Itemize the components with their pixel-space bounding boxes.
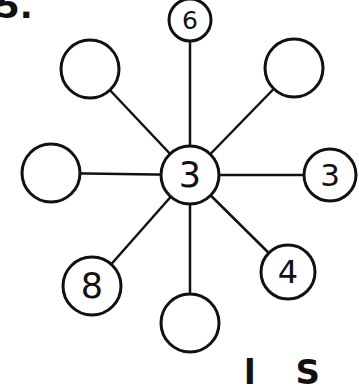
node-bottom-right: 4 [261,245,315,299]
node-top-right[interactable] [265,39,323,97]
node-top-left[interactable] [61,40,119,98]
node-bottom[interactable] [161,294,219,352]
node-bottom-left: 8 [63,257,121,315]
cropped-bottom-text: l S [244,352,334,388]
node-bottom-circle[interactable] [161,294,219,352]
node-bottom-left-value: 8 [81,266,103,306]
node-bottom-right-value: 4 [278,253,298,291]
node-right: 3 [304,149,356,201]
node-top-right-circle[interactable] [265,39,323,97]
center-node-value: 3 [179,155,201,195]
node-top-value: 6 [182,6,198,35]
node-left-circle[interactable] [22,144,80,202]
node-left[interactable] [22,144,80,202]
node-right-value: 3 [320,157,340,193]
node-top: 6 [169,0,211,41]
node-top-left-circle[interactable] [61,40,119,98]
center-node: 3 [161,146,219,204]
